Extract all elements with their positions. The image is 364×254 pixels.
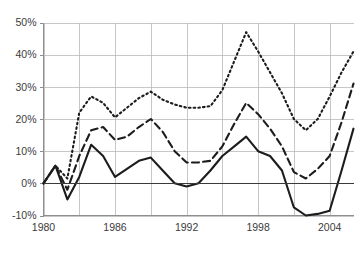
y-axis-tick-label: 50% bbox=[15, 16, 36, 28]
y-axis-tick-label: 10% bbox=[15, 145, 36, 157]
y-axis-tick-labels: -10%0%10%20%30%40%50% bbox=[12, 16, 37, 221]
series-line-top-series bbox=[44, 32, 354, 183]
y-axis-tick-label: 0% bbox=[21, 177, 36, 189]
y-axis-tick-label: 20% bbox=[15, 113, 36, 125]
y-axis-tick-label: -10% bbox=[12, 209, 37, 221]
y-axis-tick-label: 30% bbox=[15, 81, 36, 93]
series-line-bottom-series bbox=[44, 129, 354, 216]
x-axis-tick-label: 1998 bbox=[246, 221, 270, 233]
y-axis-tick-label: 40% bbox=[15, 48, 36, 60]
x-axis-tick-labels: 19801986199219982004 bbox=[32, 221, 342, 233]
line-chart: -10%0%10%20%30%40%50% 198019861992199820… bbox=[0, 0, 364, 254]
axis-tick-marks bbox=[40, 24, 44, 217]
x-axis-tick-label: 1980 bbox=[32, 221, 56, 233]
x-axis-tick-label: 2004 bbox=[318, 221, 342, 233]
data-series-group bbox=[44, 32, 354, 215]
horizontal-gridlines bbox=[44, 24, 354, 217]
chart-container: -10%0%10%20%30%40%50% 198019861992199820… bbox=[0, 0, 364, 254]
x-axis-tick-label: 1992 bbox=[175, 221, 199, 233]
x-axis-tick-label: 1986 bbox=[103, 221, 127, 233]
